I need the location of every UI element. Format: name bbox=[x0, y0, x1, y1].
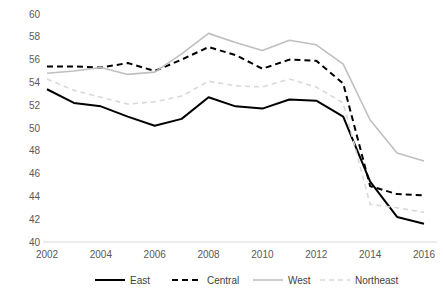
y-axis-tick-label: 54 bbox=[29, 77, 41, 88]
y-axis-tick-label: 56 bbox=[29, 54, 41, 65]
y-axis-tick-label: 48 bbox=[29, 145, 41, 156]
x-axis-tick-label: 2010 bbox=[251, 249, 274, 260]
y-axis-tick-label: 52 bbox=[29, 100, 41, 111]
y-axis-tick-label: 42 bbox=[29, 214, 41, 225]
x-axis-tick-label: 2014 bbox=[359, 249, 382, 260]
y-axis-tick-label: 40 bbox=[29, 237, 41, 248]
x-axis-tick-label: 2002 bbox=[36, 249, 59, 260]
y-axis-tick-label: 44 bbox=[29, 191, 41, 202]
y-axis-tick-label: 60 bbox=[29, 9, 41, 20]
legend-label-northeast: Northeast bbox=[355, 275, 399, 286]
x-axis-tick-label: 2016 bbox=[413, 249, 436, 260]
y-axis-tick-label: 50 bbox=[29, 123, 41, 134]
x-axis-tick-label: 2006 bbox=[144, 249, 167, 260]
line-chart: 4042444648505254565860 20022004200620082… bbox=[0, 0, 443, 301]
legend-label-central: Central bbox=[207, 275, 239, 286]
legend-label-east: East bbox=[130, 275, 150, 286]
x-axis-tick-label: 2008 bbox=[197, 249, 220, 260]
legend-label-west: West bbox=[288, 275, 311, 286]
y-axis-tick-label: 58 bbox=[29, 31, 41, 42]
x-axis-tick-label: 2012 bbox=[305, 249, 328, 260]
y-axis-tick-label: 46 bbox=[29, 168, 41, 179]
chart-canvas: 4042444648505254565860 20022004200620082… bbox=[0, 0, 443, 301]
x-axis-tick-label: 2004 bbox=[90, 249, 113, 260]
